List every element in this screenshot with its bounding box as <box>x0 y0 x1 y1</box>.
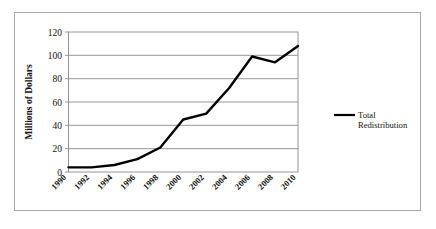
x-tick-label: 1990 <box>49 172 68 191</box>
y-axis-ticks <box>65 32 69 172</box>
y-tick-label: 100 <box>48 51 63 61</box>
x-tick-label: 1996 <box>118 172 138 192</box>
plot-gridlines <box>69 55 299 148</box>
y-tick-label: 20 <box>53 144 63 154</box>
chart-legend: Total Redistribution <box>334 110 408 130</box>
y-tick-label: 120 <box>48 28 63 38</box>
x-tick-label: 2000 <box>164 172 183 191</box>
x-tick-label: 1998 <box>141 172 161 192</box>
chart-figure: Millions of Dollars 120 100 80 60 40 20 … <box>0 0 436 229</box>
x-tick-label: 2002 <box>187 172 206 191</box>
y-tick-label: 80 <box>53 74 63 84</box>
x-tick-label: 2004 <box>210 172 230 192</box>
x-tick-label: 2006 <box>233 172 253 192</box>
x-tick-label: 1992 <box>72 172 91 191</box>
legend-label-line2: Redistribution <box>358 120 408 130</box>
x-tick-label: 1994 <box>95 172 115 192</box>
legend-label-line1: Total <box>358 110 376 120</box>
y-tick-label: 40 <box>53 121 63 131</box>
y-tick-label: 60 <box>53 98 63 108</box>
y-tick-labels: 120 100 80 60 40 20 0 <box>48 28 63 178</box>
x-tick-label: 2008 <box>256 172 276 192</box>
line-chart: Millions of Dollars 120 100 80 60 40 20 … <box>0 0 436 229</box>
y-axis-title-text: Millions of Dollars <box>24 64 34 140</box>
x-tick-labels: 1990 1992 1994 1996 1998 2000 2002 2004 … <box>49 172 298 192</box>
x-tick-label: 2010 <box>279 172 298 191</box>
y-axis-title: Millions of Dollars <box>24 64 34 140</box>
